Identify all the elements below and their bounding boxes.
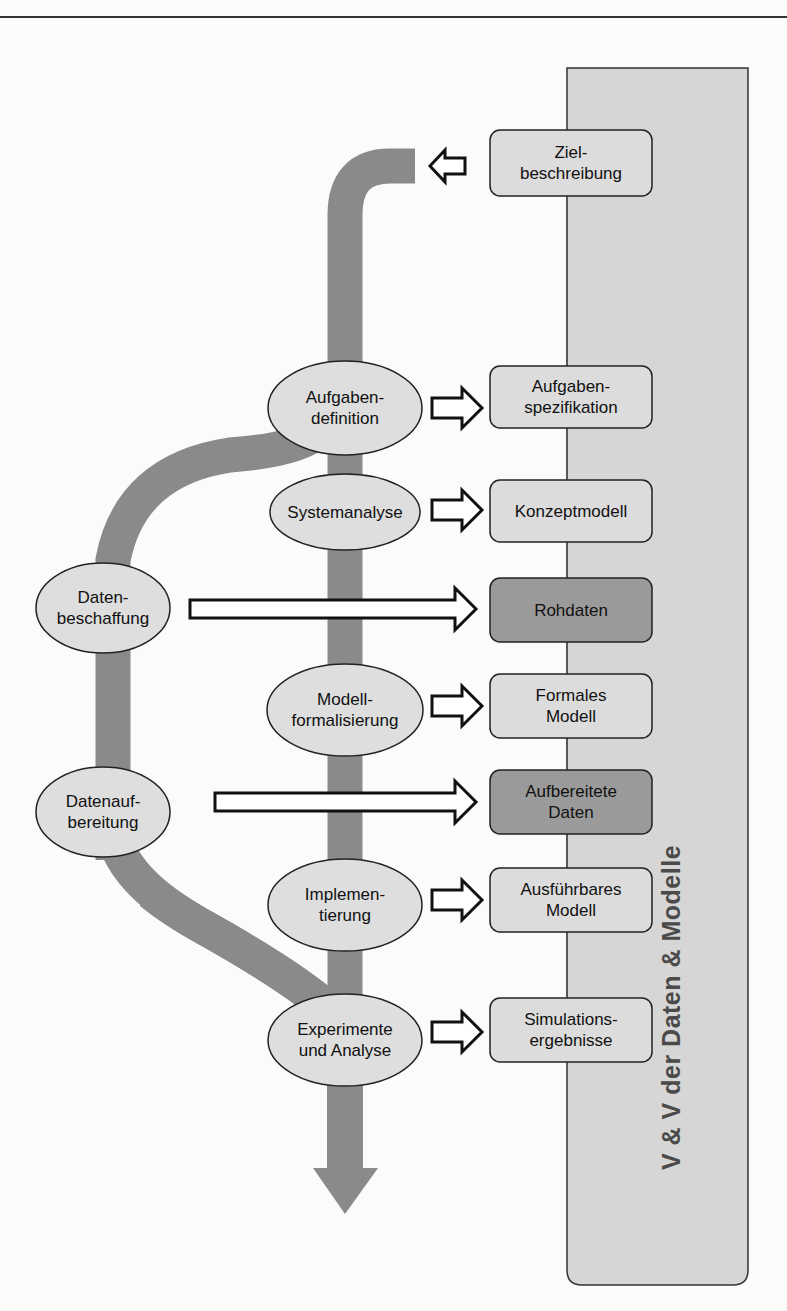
step-label: Implemen- tierung (268, 863, 422, 947)
arrow-left-icon (430, 150, 465, 182)
step-label: Systemanalyse (270, 474, 420, 550)
vv-panel-title: V & V der Daten & Modelle (657, 845, 686, 1170)
arrow-modell-icon (432, 686, 482, 726)
artifact-label: Ziel- beschreibung (490, 130, 652, 196)
artifact-label: Aufbereitete Daten (490, 770, 652, 834)
artifact-label: Konzeptmodell (490, 480, 652, 542)
artifact-label: Simulations- ergebnisse (490, 998, 652, 1062)
arrow-aufgaben-icon (432, 388, 482, 428)
arrow-exp-icon (432, 1012, 482, 1052)
artifact-label: Ausführbares Modell (490, 868, 652, 932)
arrow-system-icon (432, 490, 482, 530)
flow-down-arrow-icon (313, 1168, 378, 1214)
artifact-label: Formales Modell (490, 674, 652, 738)
step-label: Modell- formalisierung (267, 668, 423, 752)
step-label: Experimente und Analyse (268, 998, 422, 1082)
arrow-impl-icon (432, 880, 482, 920)
artifact-label: Aufgaben- spezifikation (490, 366, 652, 428)
step-label: Aufgaben- definition (268, 366, 422, 450)
artifact-label: Rohdaten (490, 578, 652, 642)
step-label: Datenauf- bereitung (36, 770, 170, 854)
step-label: Daten- beschaffung (36, 566, 170, 650)
